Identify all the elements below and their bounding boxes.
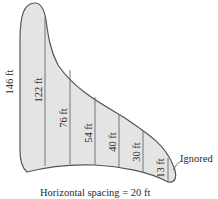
label-122ft: 122 ft <box>33 78 44 103</box>
label-40ft: 40 ft <box>107 132 118 152</box>
label-30ft: 30 ft <box>131 142 142 162</box>
label-54ft: 54 ft <box>83 123 94 143</box>
label-76ft: 76 ft <box>58 108 69 128</box>
horizontal-spacing-caption: Horizontal spacing = 20 ft <box>40 187 150 198</box>
ignored-annotation: Ignored <box>180 153 213 164</box>
lot-diagram: 146 ft 122 ft 76 ft 54 ft 40 ft 30 ft 13… <box>0 0 218 199</box>
label-13ft: 13 ft <box>155 158 166 178</box>
label-146ft: 146 ft <box>4 70 15 95</box>
